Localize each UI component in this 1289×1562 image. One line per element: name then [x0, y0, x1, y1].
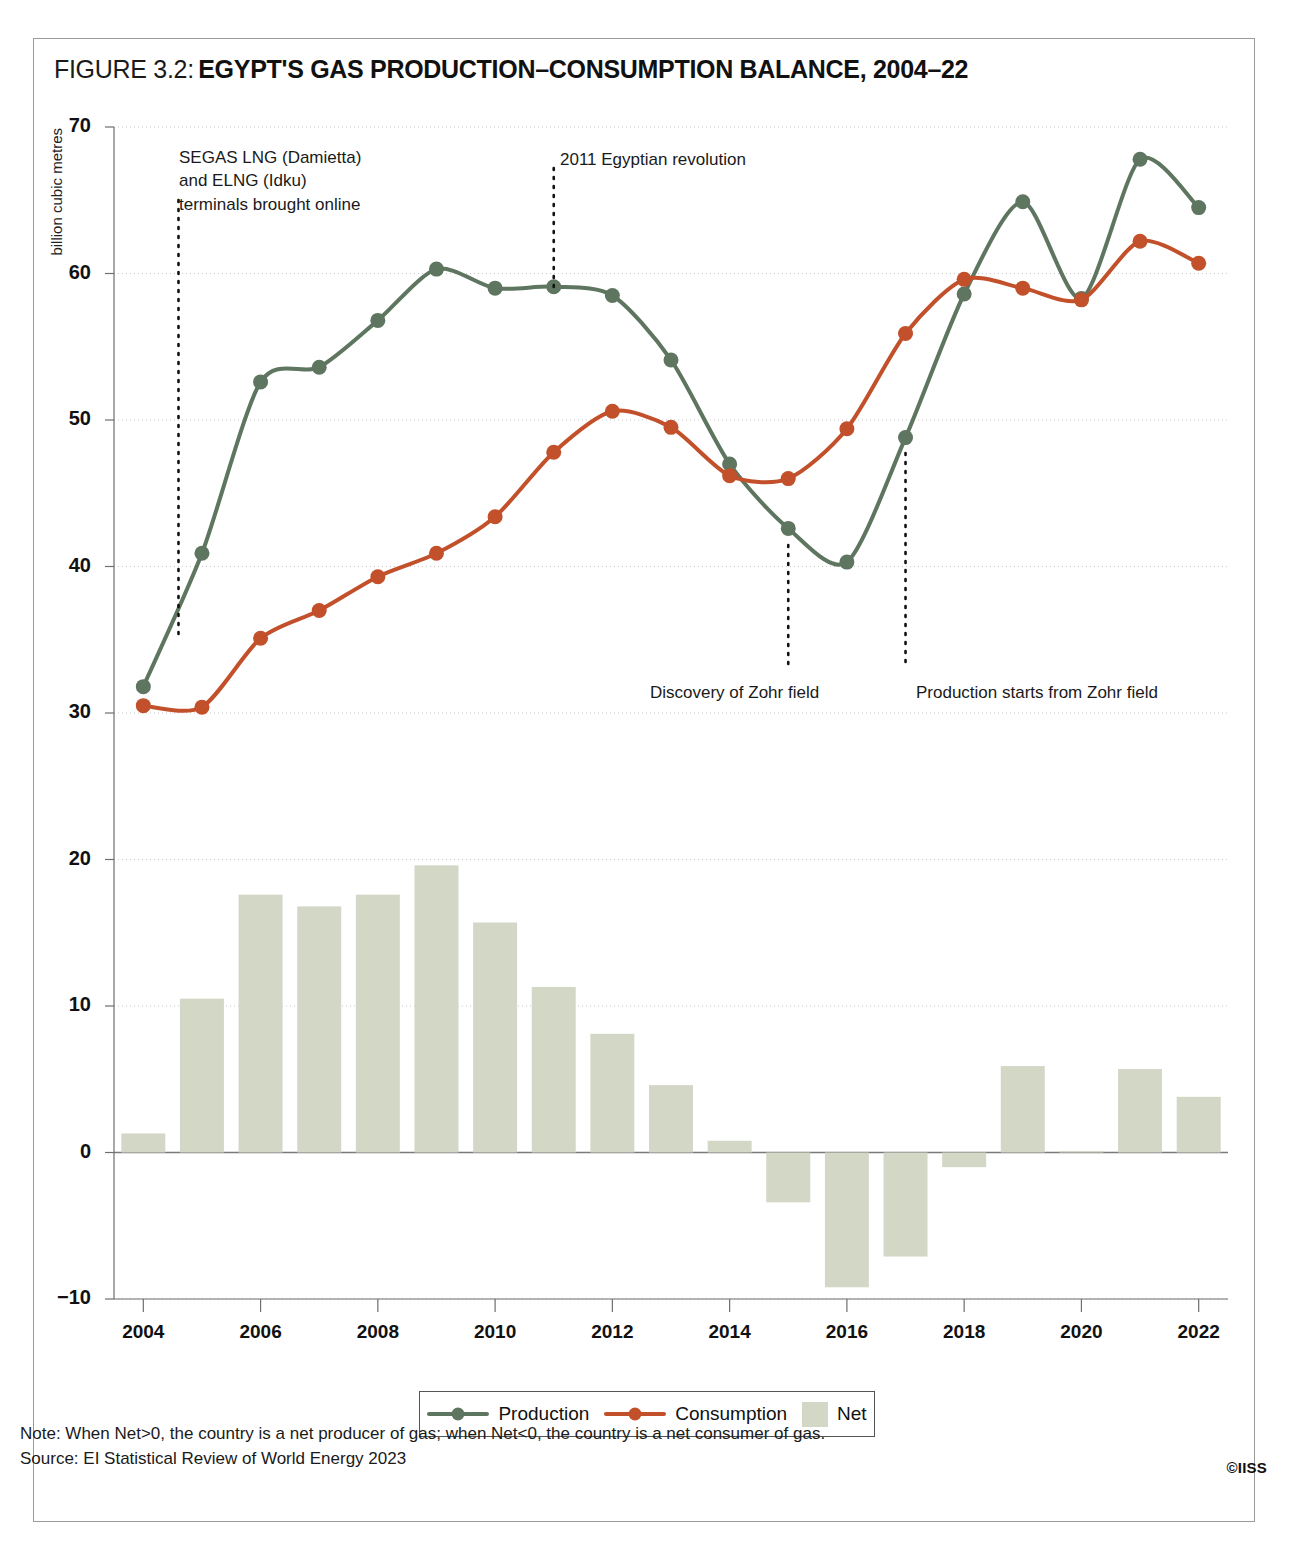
y-tick-label: 50 [39, 407, 91, 430]
production-line-swatch [427, 1412, 489, 1416]
y-tick-label: 20 [39, 847, 91, 870]
x-tick-label: 2012 [572, 1321, 652, 1343]
x-tick-label: 2018 [924, 1321, 1004, 1343]
consumption-dot-icon [629, 1408, 642, 1421]
figure-note: Note: When Net>0, the country is a net p… [20, 1422, 1200, 1447]
y-tick-label: −10 [39, 1286, 91, 1309]
production-dot-icon [452, 1408, 465, 1421]
figure-number: FIGURE 3.2: [54, 55, 194, 83]
page-title: EGYPT'S GAS PRODUCTION–CONSUMPTION BALAN… [198, 55, 968, 83]
annotation-zohr-production: Production starts from Zohr field [916, 681, 1158, 704]
annotation-revolution: 2011 Egyptian revolution [560, 148, 746, 171]
annotation-segas-elng: SEGAS LNG (Damietta) and ELNG (Idku) ter… [179, 146, 361, 216]
x-tick-label: 2006 [221, 1321, 301, 1343]
y-tick-label: 60 [39, 261, 91, 284]
x-tick-label: 2004 [103, 1321, 183, 1343]
x-tick-label: 2010 [455, 1321, 535, 1343]
x-tick-label: 2014 [690, 1321, 770, 1343]
figure-footer: Note: When Net>0, the country is a net p… [20, 1422, 1200, 1471]
y-tick-label: 10 [39, 993, 91, 1016]
iiss-copyright: ©IISS [1227, 1459, 1267, 1476]
y-tick-label: 70 [39, 114, 91, 137]
y-tick-label: 40 [39, 554, 91, 577]
x-tick-label: 2020 [1041, 1321, 1121, 1343]
x-tick-label: 2022 [1159, 1321, 1239, 1343]
consumption-line-swatch [604, 1412, 666, 1416]
y-axis-title: billion cubic metres [48, 128, 65, 256]
x-tick-label: 2008 [338, 1321, 418, 1343]
figure-source: Source: EI Statistical Review of World E… [20, 1447, 1200, 1472]
figure-frame: FIGURE 3.2: EGYPT'S GAS PRODUCTION–CONSU… [33, 38, 1255, 1522]
annotation-zohr-discovery: Discovery of Zohr field [650, 681, 819, 704]
x-tick-label: 2016 [807, 1321, 887, 1343]
y-tick-label: 30 [39, 700, 91, 723]
figure-title-bar: FIGURE 3.2: EGYPT'S GAS PRODUCTION–CONSU… [54, 55, 1234, 95]
y-tick-label: 0 [39, 1140, 91, 1163]
